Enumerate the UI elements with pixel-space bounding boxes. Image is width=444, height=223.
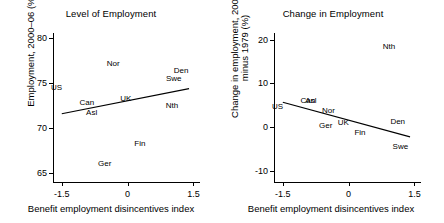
data-point-label: Nth — [166, 100, 178, 109]
data-point-label: UK — [120, 93, 131, 102]
y-tick-label: -10 — [255, 166, 268, 176]
x-tick — [128, 182, 129, 186]
y-tick — [270, 171, 274, 172]
y-tick — [49, 173, 53, 174]
panel-level-of-employment: Level of Employment Employment, 2000–06 … — [0, 0, 222, 223]
y-tick-label: 0 — [263, 122, 268, 132]
y-tick — [49, 38, 53, 39]
x-axis-line — [274, 182, 421, 183]
data-point-label: Asl — [305, 96, 316, 105]
data-point-label: Den — [174, 65, 189, 74]
x-tick-label: -1.5 — [275, 189, 291, 199]
data-point-label: Fin — [134, 139, 145, 148]
regression-line — [274, 33, 421, 182]
y-tick-label: 20 — [258, 35, 268, 45]
data-point-label: Can — [79, 98, 94, 107]
x-tick — [193, 182, 194, 186]
data-point-label: Den — [390, 116, 405, 125]
y-tick-label: 70 — [37, 123, 47, 133]
y-tick-label: 80 — [37, 33, 47, 43]
x-tick — [283, 182, 284, 186]
panel-change-in-employment: Change in Employment Change in employmen… — [222, 0, 444, 223]
x-tick — [62, 182, 63, 186]
data-point-label: Swe — [393, 142, 409, 151]
y-tick — [270, 83, 274, 84]
y-axis-label-line2: minus 1979 (%) — [239, 15, 250, 82]
x-tick-label: -1.5 — [54, 189, 70, 199]
data-point-label: Swe — [166, 73, 182, 82]
plot-area: 65707580-1.501.5USCanAslGerNorUKFinNthSw… — [53, 33, 200, 182]
data-point-label: Ger — [319, 121, 332, 130]
y-axis-label: Change in employment, 2000–06 minus 1979… — [230, 0, 250, 128]
data-point-label: Fin — [354, 127, 365, 136]
y-tick — [270, 127, 274, 128]
data-point-label: Nor — [322, 106, 335, 115]
data-point-label: US — [51, 82, 62, 91]
y-tick-label: 10 — [258, 78, 268, 88]
data-point-label: Ger — [98, 159, 111, 168]
data-point-label: Asl — [86, 107, 97, 116]
y-tick — [270, 40, 274, 41]
y-tick-label: 75 — [37, 78, 47, 88]
x-tick-label: 0 — [125, 189, 130, 199]
y-axis-label: Employment, 2000–06 (%) — [25, 0, 36, 131]
data-point-label: Nor — [107, 58, 120, 67]
data-point-label: Nth — [383, 41, 395, 50]
x-axis-label: Benefit employment disincentives index — [0, 203, 222, 214]
x-tick-label: 1.5 — [408, 189, 421, 199]
x-axis-line — [53, 182, 200, 183]
x-tick-label: 0 — [346, 189, 351, 199]
data-point-label: UK — [338, 117, 349, 126]
x-tick-label: 1.5 — [187, 189, 200, 199]
data-point-label: US — [272, 101, 283, 110]
y-tick-label: 65 — [37, 168, 47, 178]
y-tick — [49, 128, 53, 129]
plot-area: -1001020-1.501.5USCanAslNorGerUKFinNthDe… — [274, 33, 421, 182]
panel-title: Change in Employment — [222, 8, 444, 19]
x-tick — [414, 182, 415, 186]
x-axis-label: Benefit employment disincentives index — [220, 203, 442, 214]
employment-scatter-figure: Level of Employment Employment, 2000–06 … — [0, 0, 444, 223]
x-tick — [349, 182, 350, 186]
